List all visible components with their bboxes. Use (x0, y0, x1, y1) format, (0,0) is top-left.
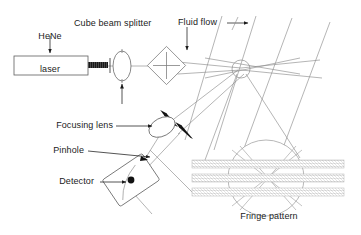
label-fringe-pattern: Fringe pattern (226, 211, 312, 222)
ray-construction-b (150, 150, 196, 196)
ray-through-upper (241, 60, 320, 68)
label-cube-beam-splitter: Cube beam splitter (74, 18, 151, 29)
label-focusing-lens: Focusing lens (6, 120, 113, 131)
callout-fringe-left (205, 74, 237, 160)
fringe-pattern-detail (192, 140, 344, 216)
ray-split-upper (178, 62, 241, 68)
label-detector: Detector (6, 176, 94, 187)
scattered-light-arrow-2 (175, 122, 193, 139)
label-hene-laser: HeNe laser (26, 9, 74, 97)
fringe-band (192, 160, 344, 168)
label-hene-line2: laser (26, 64, 74, 75)
fringe-band (192, 188, 344, 196)
ray-split-lower (178, 70, 241, 74)
cube-beam-splitter (147, 46, 185, 84)
fluid-flow-tick (232, 17, 238, 30)
fringe-bands (192, 160, 344, 196)
measurement-volume (232, 60, 250, 78)
laser-beam-segment (88, 62, 108, 68)
streamline-1 (185, 16, 222, 140)
ldv-diagram: HeNe laser Cube beam splitter Fluid flow… (0, 0, 361, 235)
label-hene-line1: HeNe (26, 31, 74, 42)
fringe-band (192, 174, 344, 182)
label-fluid-flow: Fluid flow (178, 17, 217, 28)
ray-cross-b (205, 58, 300, 78)
ray-lens-to-pinhole-b (147, 133, 180, 168)
ray-scatter-upper (170, 70, 238, 122)
label-pinhole: Pinhole (6, 145, 84, 156)
collimating-lens (113, 49, 131, 83)
streamline-2 (214, 16, 256, 150)
pinhole-dot (128, 177, 135, 184)
focusing-lens (145, 112, 178, 141)
ray-scatter-lower (178, 74, 244, 134)
leader-lines (50, 23, 248, 182)
